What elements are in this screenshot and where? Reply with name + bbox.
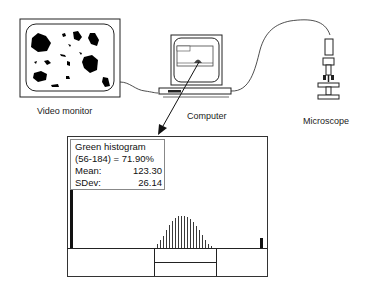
- video-monitor-label: Video monitor: [37, 106, 92, 116]
- histogram-info-box: Green histogram (56-184) = 71.90% Mean: …: [70, 139, 165, 190]
- sdev-value: 26.14: [120, 177, 162, 189]
- microscope-label: Microscope: [303, 116, 349, 126]
- sdev-label: SDev:: [75, 177, 120, 189]
- microscope-cable: [231, 20, 330, 91]
- histogram-title: Green histogram: [75, 141, 146, 153]
- computer-icon: [159, 35, 231, 97]
- video-monitor-icon: [20, 19, 120, 97]
- monitor-cable: [120, 82, 158, 93]
- diagram-canvas: [0, 0, 372, 289]
- computer-label: Computer: [187, 111, 227, 121]
- histogram-range: (56-184) = 71.90%: [75, 153, 154, 165]
- mean-value: 123.30: [120, 165, 162, 177]
- mean-label: Mean:: [75, 165, 120, 177]
- arrow-head-icon: [158, 124, 167, 135]
- microscope-icon: [318, 39, 339, 99]
